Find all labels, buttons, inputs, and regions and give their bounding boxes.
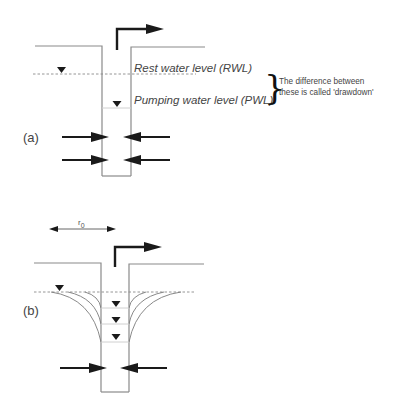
pwl-water-level-icon	[113, 101, 122, 107]
radius-label: r0	[78, 218, 85, 229]
pwl-label: Pumping water level (PWL)	[134, 94, 273, 106]
inflow-arrow-left-b-head-icon	[89, 363, 107, 373]
ground-surface-right-b	[129, 264, 204, 392]
pump-outflow-arrow-icon	[146, 24, 164, 34]
inflow-arrow-left-1-head-icon	[91, 132, 109, 142]
drawdown-note-line2: these is called 'drawdown'	[279, 88, 374, 97]
initial-water-level-icon	[55, 285, 64, 291]
rwl-label: Rest water level (RWL)	[134, 62, 252, 74]
panel-a: Rest water level (RWL) Pumping water lev…	[23, 24, 374, 176]
panel-a-label: (a)	[23, 130, 39, 145]
well-drawdown-diagram: Rest water level (RWL) Pumping water lev…	[0, 0, 395, 407]
rwl-water-level-icon	[57, 67, 66, 73]
pwl-level-3-icon	[112, 334, 121, 340]
panel-b: r0 (b)	[23, 218, 204, 392]
radius-arrow-left-icon	[49, 226, 58, 232]
panel-b-label: (b)	[23, 303, 39, 318]
cone-curve-left-1	[51, 292, 101, 342]
pwl-level-1-icon	[112, 301, 121, 307]
pump-outflow-arrow-b-icon	[144, 242, 162, 252]
ground-surface-left-b	[34, 263, 101, 392]
drawdown-note-line1: The difference between	[279, 77, 365, 86]
pwl-level-2-icon	[112, 317, 121, 323]
inflow-arrow-right-2-head-icon	[123, 155, 141, 165]
drawdown-brace: }	[264, 67, 286, 107]
radius-arrow-right-icon	[107, 226, 116, 232]
inflow-arrow-right-1-head-icon	[123, 132, 141, 142]
cone-curve-right-1	[129, 292, 181, 342]
inflow-arrow-left-2-head-icon	[91, 155, 109, 165]
